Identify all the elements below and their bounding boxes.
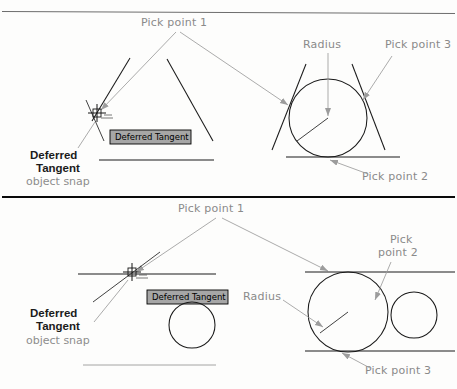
label-pick-point-2-line1-lower: Pick xyxy=(390,233,413,246)
label-pick-point-3-lower: Pick point 3 xyxy=(365,364,431,377)
object-line-left-b-upper xyxy=(167,59,213,141)
tooltip-text-lower: Deferred Tangent xyxy=(152,292,226,302)
leader-pp1-to-circle-upper xyxy=(180,32,288,105)
leader-pp3-lower xyxy=(342,353,370,368)
label-pick-point-1-lower: Pick point 1 xyxy=(178,202,244,215)
top-divider-rule xyxy=(2,12,455,14)
radius-line-lower xyxy=(320,312,348,333)
tooltip-deferred-tangent-lower: Deferred Tangent xyxy=(147,290,228,304)
label-pick-point-2-upper: Pick point 2 xyxy=(362,170,428,183)
input-circle-lower xyxy=(169,302,215,348)
label-pick-point-3-line1-upper: Pick point 3 xyxy=(385,38,451,51)
tangent-snap-marker-upper xyxy=(101,115,113,118)
panel-lower: Pick point 1 Deferred Tangent xyxy=(26,202,455,377)
snap-label-line2-lower: Tangent xyxy=(36,320,80,332)
label-radius-upper: Radius xyxy=(303,38,341,51)
snap-label-line1-lower: Deferred xyxy=(30,307,77,319)
tooltip-text-upper: Deferred Tangent xyxy=(115,132,189,142)
tangent-tangent-radius-figure: Pick point 1 Deferred Tangent xyxy=(0,0,457,389)
snap-label-line2-upper: Tangent xyxy=(36,162,80,174)
leader-snaplabel-upper xyxy=(78,122,95,148)
panel-upper: Pick point 1 Deferred Tangent xyxy=(26,16,451,188)
tooltip-deferred-tangent-upper: Deferred Tangent xyxy=(110,130,191,144)
leader-pp2-upper xyxy=(330,160,368,174)
circle-group-lower xyxy=(305,272,455,352)
snap-label-upper: Deferred Tangent object snap xyxy=(26,122,95,188)
leader-pp1-to-crosshair-lower xyxy=(136,218,216,272)
leader-pp1-to-circle-lower xyxy=(222,218,328,271)
label-radius-lower: Radius xyxy=(243,290,281,303)
leader-snaplabel-lower xyxy=(94,280,128,322)
tangent-line-right-upper xyxy=(352,64,385,150)
leader-pp3-upper xyxy=(363,56,392,100)
tangent-snap-marker-lower xyxy=(136,275,148,278)
leader-pp1-to-crosshair-upper xyxy=(101,32,176,110)
snap-label-line3-lower: object snap xyxy=(26,334,90,347)
crosshair-cursor-lower xyxy=(123,263,148,281)
tangent-line-left-upper xyxy=(272,64,306,150)
radius-line-upper xyxy=(297,118,328,141)
label-pick-point-1-upper: Pick point 1 xyxy=(141,16,207,29)
object-line-left-a-upper xyxy=(92,58,130,121)
snap-label-line1-upper: Deferred xyxy=(30,149,77,161)
leader-pp2-lower xyxy=(375,262,391,300)
label-pick-point-2-line2-lower: point 2 xyxy=(378,246,418,259)
snap-label-line3-upper: object snap xyxy=(26,175,90,188)
leader-radius-lower xyxy=(283,300,323,327)
snap-label-lower: Deferred Tangent object snap xyxy=(26,280,128,347)
circle-group-upper xyxy=(272,64,400,157)
small-circle-lower xyxy=(391,292,437,338)
